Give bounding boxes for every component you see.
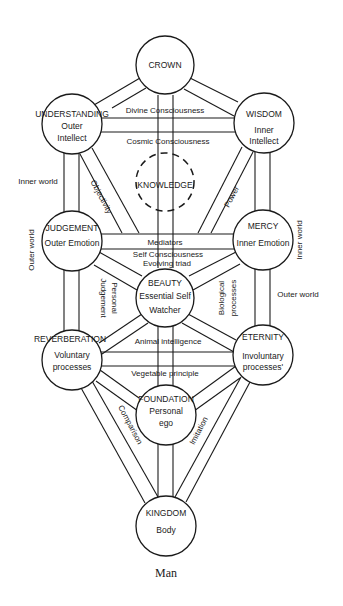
understanding-line1: Outer <box>61 121 82 131</box>
divine-consciousness-label: Divine Consciousness <box>126 106 205 115</box>
reverberation-title: REVERBERATION <box>34 334 106 344</box>
understanding-title: UNDERSTANDING <box>35 109 109 119</box>
inner-world-left-label: Inner world <box>18 177 58 186</box>
evolving-triad-label: Evolving triad <box>143 259 191 268</box>
foundation-line1: Personal <box>149 406 183 416</box>
caption: Man <box>155 566 177 580</box>
reverberation-line2: processes <box>53 362 92 372</box>
outer-world-left-label: Outer world <box>27 229 36 270</box>
knowledge-title: KNOWLEDGE <box>137 180 193 190</box>
kingdom-title: KINGDOM <box>146 508 187 518</box>
foundation-title: FOUNDATION <box>138 394 194 404</box>
vegetable-principle-label: Vegetable principle <box>131 369 199 378</box>
judgement-line1: Outer Emotion <box>45 238 100 248</box>
objectivity-label: Objectivity <box>89 178 114 215</box>
biological-label-1: Biological <box>217 281 226 315</box>
self-consciousness-label: Self Consciousness <box>133 250 203 259</box>
power-label: Power <box>222 184 241 209</box>
wisdom-title: WISDOM <box>246 109 282 119</box>
inner-world-right-label: Inner world <box>295 220 304 260</box>
mercy-line1: Inner Emotion <box>237 238 290 248</box>
mercy-title: MERCY <box>248 221 279 231</box>
beauty-line1: Essential Self <box>139 291 191 301</box>
eternity-line2: processes' <box>243 362 284 372</box>
kingdom-line1: Body <box>156 525 176 535</box>
animal-intelligence-label: Animal intelligence <box>135 337 202 346</box>
wisdom-line2: Intellect <box>249 136 279 146</box>
wisdom-line1: Inner <box>254 125 274 135</box>
judgement-title: JUDGEMENT <box>46 223 99 233</box>
personal-judgement-label-2: Judgement <box>99 278 108 318</box>
understanding-line2: Intellect <box>57 133 87 143</box>
tree-of-life-diagram: CROWN UNDERSTANDING Outer Intellect WISD… <box>0 0 343 606</box>
reverberation-line1: Voluntary <box>54 350 90 360</box>
outer-world-right-label: Outer world <box>277 290 318 299</box>
personal-judgement-label-1: Personal <box>110 282 119 314</box>
cosmic-consciousness-label: Cosmic Consciousness <box>126 137 209 146</box>
eternity-line1: Involuntary <box>242 351 284 361</box>
eternity-title: ETERNITY <box>242 332 284 342</box>
mediators-label: Mediators <box>147 238 182 247</box>
beauty-line2: Watcher <box>149 305 181 315</box>
foundation-line2: ego <box>159 418 173 428</box>
beauty-title: BEAUTY <box>148 278 182 288</box>
crown-title: CROWN <box>148 60 181 70</box>
biological-label-2: processes <box>229 280 238 316</box>
